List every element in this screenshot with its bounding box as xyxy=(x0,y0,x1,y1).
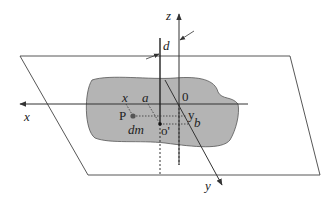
label-origin: 0 xyxy=(182,89,189,104)
diagram-canvas: z d x y 0 x a y b P dm o' xyxy=(0,0,333,198)
label-dm: dm xyxy=(128,122,144,137)
d-arrow-left xyxy=(146,54,159,59)
label-z: z xyxy=(165,8,171,23)
label-x-coord: x xyxy=(121,90,128,105)
label-b-coord: b xyxy=(194,115,201,130)
label-p: P xyxy=(119,108,126,123)
point-p xyxy=(130,113,135,118)
label-a-coord: a xyxy=(142,90,149,105)
d-arrow-right xyxy=(180,31,194,40)
label-y-axis: y xyxy=(203,178,211,193)
label-d: d xyxy=(163,38,170,53)
label-x-axis: x xyxy=(23,109,30,124)
label-o-prime: o' xyxy=(161,123,170,138)
